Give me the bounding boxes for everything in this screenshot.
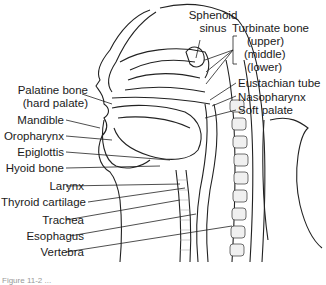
label-turbinate-bone: Turbinate bone — [232, 22, 309, 35]
label-turbinate-upper: (upper) — [247, 35, 284, 48]
label-turbinate-middle: (middle) — [244, 48, 286, 61]
label-sphenoid-sinus: Sphenoid sinus — [188, 9, 238, 35]
label-oropharynx: Oropharynx — [0, 130, 64, 143]
label-thyroid-cartilage: Thyroid cartilage — [0, 196, 86, 209]
label-larynx: Larynx — [0, 180, 84, 193]
label-trachea: Trachea — [0, 214, 84, 227]
label-epiglottis: Epiglottis — [0, 146, 64, 159]
label-mandible: Mandible — [0, 114, 64, 127]
label-eustachian-tube: Eustachian tube — [238, 77, 320, 90]
label-turbinate-lower: (lower) — [247, 61, 282, 74]
label-text: sinus — [188, 22, 238, 35]
label-text: (hard palate) — [0, 97, 88, 110]
label-esophagus: Esophagus — [0, 230, 84, 243]
label-vertebra: Vertebra — [0, 246, 84, 259]
label-hyoid-bone: Hyoid bone — [0, 162, 64, 175]
label-text: Palatine bone — [0, 84, 88, 97]
figure-caption: Figure 11-2 ... — [2, 276, 51, 285]
label-palatine-bone: Palatine bone (hard palate) — [0, 84, 88, 110]
label-nasopharynx: Nasopharynx — [238, 91, 306, 104]
label-text: Sphenoid — [188, 9, 238, 22]
label-soft-palate: Soft palate — [238, 104, 293, 117]
